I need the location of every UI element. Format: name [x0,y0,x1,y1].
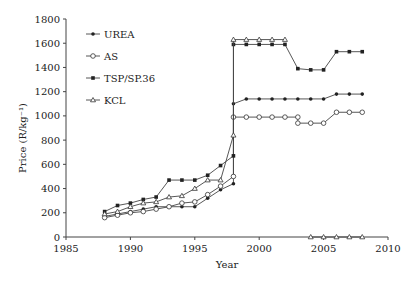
y-tick-label: 600 [41,159,60,170]
legend-marker [91,32,95,36]
data-point [270,97,274,101]
data-point [257,43,261,47]
data-point [128,210,133,215]
chart: 1985199019952000200520100200400600800100… [0,0,419,284]
y-tick-label: 800 [41,135,60,146]
data-point [270,43,274,47]
data-point [193,205,197,209]
data-point [296,121,301,126]
data-point [167,204,172,209]
data-point [347,110,352,115]
data-point [179,193,184,197]
legend-label: KCL [104,95,126,106]
data-point [193,200,198,205]
y-tick-label: 1400 [35,62,60,73]
data-point [309,97,313,101]
x-tick-label: 2010 [375,243,400,254]
data-point [321,121,326,126]
line-chart: 1985199019952000200520100200400600800100… [0,0,419,284]
y-tick-label: 1800 [35,14,60,25]
x-axis-label: Year [215,259,239,270]
data-point [360,92,364,96]
data-point [232,182,236,186]
data-point [270,115,275,120]
legend-label: TSP/SP.36 [104,73,155,84]
data-point [348,92,352,96]
data-point [231,133,236,137]
y-axis-label: Price (R/kg⁻¹) [17,103,28,173]
y-tick-label: 1200 [35,86,60,97]
legend-marker [91,76,95,80]
legend-label: AS [103,51,118,62]
data-point [245,97,249,101]
x-tick-label: 1985 [53,243,78,254]
data-point [167,178,171,182]
legend-label: UREA [104,29,135,40]
y-tick-label: 0 [54,232,60,243]
data-point [283,97,287,101]
data-point [205,192,210,197]
y-tick-label: 1600 [35,38,60,49]
data-point [334,110,339,115]
data-point [283,43,287,47]
data-point [231,174,236,179]
data-point [180,201,185,206]
x-tick-label: 2005 [311,243,336,254]
data-point [257,97,261,101]
data-point [245,43,249,47]
data-point [322,68,326,72]
data-point [335,50,339,54]
data-point [218,184,223,189]
data-point [335,92,339,96]
data-point [154,195,158,199]
data-point [296,67,300,71]
x-tick-label: 1990 [118,243,143,254]
y-tick-label: 1000 [35,110,60,121]
data-point [219,164,223,168]
data-point [296,97,300,101]
data-point [322,97,326,101]
y-tick-label: 200 [41,207,60,218]
data-point [180,178,184,182]
data-point [116,204,120,208]
data-point [192,186,197,190]
data-point [348,50,352,54]
data-point [360,50,364,54]
data-point [308,121,313,126]
data-point [206,173,210,177]
data-point [309,68,313,72]
legend-marker [91,54,96,59]
data-point [193,178,197,182]
x-tick-label: 1995 [182,243,207,254]
data-point [296,115,301,120]
data-point [257,115,262,120]
data-point [283,115,288,120]
data-point [232,154,236,158]
data-point [141,209,146,214]
data-point [360,110,365,115]
data-point [244,115,249,120]
x-tick-label: 2000 [246,243,271,254]
data-point [154,207,159,212]
y-tick-label: 400 [41,183,60,194]
